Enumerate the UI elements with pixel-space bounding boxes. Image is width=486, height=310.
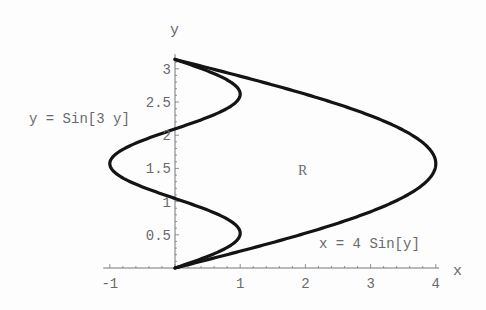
x-tick-label: 3 [366,276,374,292]
curve-right-label: x = 4 Sin[y] [319,236,420,252]
y-axis-label: y [170,22,179,39]
y-tick-label: 0.5 [146,228,171,244]
y-tick-label: 3 [163,62,171,78]
x-tick-label: -1 [101,276,118,292]
curve-left-label: y = Sin[3 y] [29,111,130,127]
region-label: R [298,163,308,178]
y-tick-label: 1.5 [146,161,171,177]
x-tick-label: 2 [301,276,309,292]
x-tick-label: 4 [432,276,440,292]
y-tick-label: 1 [163,195,171,211]
y-tick-label: 2 [163,128,171,144]
x-tick-label: 1 [236,276,244,292]
x-axis-label: x [453,263,462,280]
tick-labels: -112340.511.522.53 [101,62,440,292]
y-tick-label: 2.5 [146,95,171,111]
plot-area: y x y = Sin[3 y] R x = 4 Sin[y] -112340.… [0,0,486,310]
